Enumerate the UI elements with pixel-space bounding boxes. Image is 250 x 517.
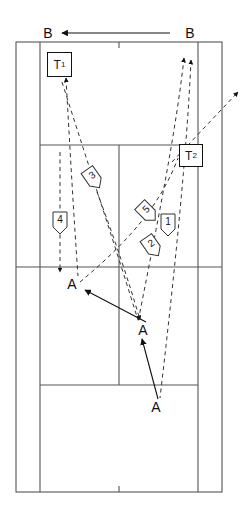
arrow-a-middle-to-a-left [85,290,146,322]
thrower-box-t2[interactable]: T2 [179,144,203,167]
thrower-box-t1[interactable]: T1 [47,52,72,77]
thrower-box-t2-sub: 2 [192,152,196,160]
path-right-up-a [138,58,184,322]
court-and-paths-svg: 1 2 3 4 5 B B A A A [0,0,250,517]
court-lines [16,42,222,492]
label-b-left: B [43,25,52,41]
thrower-box-t1-label: T [54,59,61,71]
arrow-a-bottom-to-a-middle [142,339,158,399]
label-a-left: A [67,276,77,292]
path-t1-from-a-left [66,78,78,276]
label-a-bottom: A [151,399,161,415]
label-a-middle: A [138,322,148,338]
thrower-box-t2-label: T [185,150,192,162]
thrower-box-t1-sub: 1 [61,61,65,69]
label-b-right: B [185,25,194,41]
ball-trajectory-paths [60,58,238,398]
diagram-canvas: 1 2 3 4 5 B B A A A T1 T2 [0,0,250,517]
player-number-1: 1 [165,216,171,227]
player-number-4: 4 [57,214,63,225]
player-marker-shapes [53,166,175,260]
